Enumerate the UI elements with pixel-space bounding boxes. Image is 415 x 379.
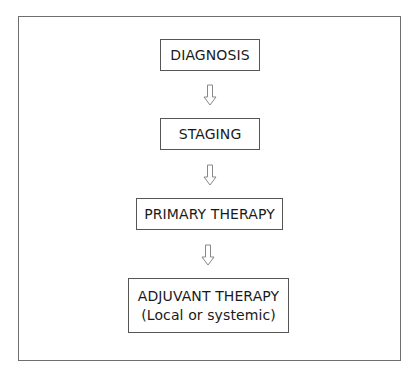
node-primary-therapy-label: PRIMARY THERAPY — [144, 205, 275, 224]
down-arrow-icon — [203, 164, 217, 186]
node-primary-therapy: PRIMARY THERAPY — [136, 198, 283, 230]
node-adjuvant-therapy: ADJUVANT THERAPY (Local or systemic) — [128, 278, 289, 333]
node-staging-label: STAGING — [179, 125, 242, 144]
node-staging: STAGING — [160, 118, 260, 150]
node-diagnosis: DIAGNOSIS — [160, 39, 260, 71]
node-diagnosis-label: DIAGNOSIS — [170, 46, 249, 65]
node-adjuvant-therapy-label: ADJUVANT THERAPY — [138, 287, 279, 306]
node-adjuvant-therapy-sublabel: (Local or systemic) — [141, 306, 276, 325]
down-arrow-icon — [201, 244, 215, 266]
down-arrow-icon — [203, 84, 217, 106]
